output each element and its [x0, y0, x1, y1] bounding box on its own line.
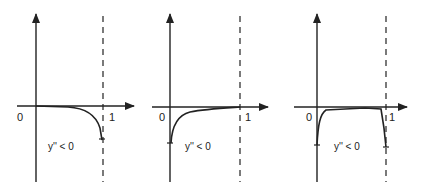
- condition-label: y'' < 0: [185, 141, 211, 152]
- solution-curve: [171, 107, 240, 143]
- panel-2: 0 1 y'' < 0: [152, 14, 268, 182]
- figure-canvas: 0 1 y'' < 0 0 1 y'' < 0 0 1 y'' < 0: [0, 0, 424, 196]
- solution-curve: [36, 106, 102, 140]
- x-one-label: 1: [245, 111, 251, 123]
- origin-label: 0: [17, 111, 23, 123]
- panel-3: 0 1 y'' < 0: [294, 14, 407, 182]
- origin-label: 0: [306, 111, 312, 123]
- x-one-label: 1: [389, 111, 395, 123]
- x-one-label: 1: [109, 111, 115, 123]
- origin-label: 0: [159, 111, 165, 123]
- condition-label: y'' < 0: [334, 141, 360, 152]
- condition-label: y'' < 0: [48, 141, 74, 152]
- panel-1: 0 1 y'' < 0: [17, 14, 134, 182]
